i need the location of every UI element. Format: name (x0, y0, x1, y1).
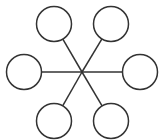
spoke-bottom-left (63, 72, 82, 106)
node-circle-left (7, 55, 42, 90)
node-circle-right (123, 55, 158, 90)
hub-point (81, 71, 83, 73)
node-circle-bottom-right (94, 104, 129, 139)
spoke-top-right (82, 39, 102, 72)
node-circle-bottom-left (37, 104, 72, 139)
spoke-bottom-right (82, 72, 102, 106)
node-circle-top-right (94, 7, 129, 42)
spoke-top-left (63, 39, 82, 72)
hub-spoke-diagram (0, 0, 167, 140)
node-circle-top-left (37, 7, 72, 42)
